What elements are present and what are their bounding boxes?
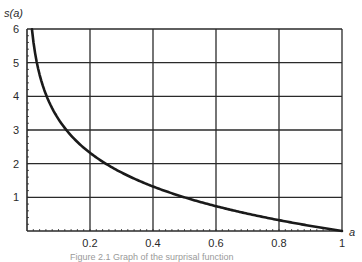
y-tick-label: 1: [13, 191, 19, 203]
y-tick-label: 3: [13, 124, 19, 136]
x-tick-label: 0.4: [145, 237, 160, 249]
grid-lines: [27, 29, 342, 231]
figure-caption: Figure 2.1 Graph of the surprisal functi…: [70, 252, 234, 262]
x-tick-label: 0.8: [271, 237, 286, 249]
x-axis-label: a: [349, 226, 355, 238]
x-tick-label: 1: [339, 237, 345, 249]
y-tick-label: 2: [13, 158, 19, 170]
tick-labels: 0.20.40.60.81123456: [13, 23, 345, 249]
y-axis-label: s(a): [4, 7, 23, 19]
x-tick-label: 0.2: [82, 237, 97, 249]
x-tick-label: 0.6: [208, 237, 223, 249]
y-tick-label: 5: [13, 57, 19, 69]
y-tick-label: 6: [13, 23, 19, 35]
y-tick-label: 4: [13, 90, 19, 102]
